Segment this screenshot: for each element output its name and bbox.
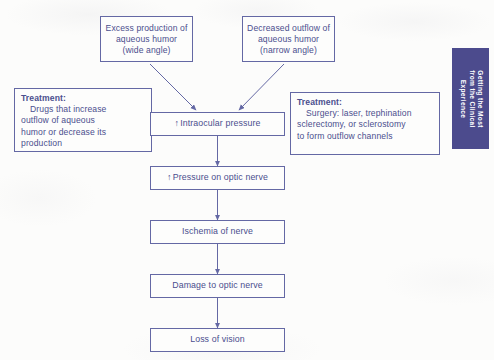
treatment-body: Surgery: laser, trephination sclerectomy… [297, 108, 434, 142]
margin-tab-getting-the-most: Getting the Most from the Clinical Exper… [452, 48, 489, 149]
cause-line: (wide angle) [122, 45, 170, 55]
chain-box-label: Ischemia of nerve [182, 226, 253, 237]
treatment-body-line: outflow of aqueous [21, 115, 146, 126]
figure-canvas: Excess production of aqueous humor (wide… [0, 0, 494, 360]
treatment-body-line: Drugs that increase [21, 104, 146, 115]
arrow-excess-production-to-iop [150, 64, 196, 110]
treatment-heading: Treatment: [21, 93, 146, 104]
treatment-body-line: production [21, 138, 146, 149]
cause-box-decreased-outflow: Decreased outflow of aqueous humor (narr… [242, 16, 335, 62]
treatment-body-line: humor or decrease its [21, 127, 146, 138]
margin-tab-text: Getting the Most from the Clinical Exper… [458, 49, 483, 148]
treatment-body-line: Surgery: laser, trephination [297, 108, 434, 119]
treatment-body-line: to form outflow channels [297, 131, 434, 142]
treatment-body: Drugs that increase outflow of aqueous h… [21, 104, 146, 149]
chain-box-label: Loss of vision [190, 334, 245, 345]
chain-box-ischemia-of-nerve: Ischemia of nerve [150, 220, 285, 244]
margin-tab-line: Experience [458, 49, 466, 148]
chain-box-intraocular-pressure: ↑ Intraocular pressure [150, 112, 285, 136]
margin-tab-line: from the Clinical [466, 49, 474, 148]
cause-box-excess-production: Excess production of aqueous humor (wide… [100, 16, 193, 62]
cause-line: Excess production [106, 23, 178, 33]
treatment-box-surgical: Treatment: Surgery: laser, trephination … [290, 92, 440, 155]
margin-tab-line: Getting the Most [475, 49, 483, 148]
cause-line: Decreased outflow [247, 23, 320, 33]
cause-line: (narrow angle) [260, 45, 317, 55]
increase-arrow-icon: ↑ [175, 118, 180, 129]
increase-arrow-icon: ↑ [167, 172, 172, 183]
chain-box-pressure-on-optic-nerve: ↑ Pressure on optic nerve [150, 166, 285, 190]
treatment-heading: Treatment: [297, 97, 434, 108]
chain-box-label: Intraocular pressure [180, 118, 260, 129]
treatment-body-line: sclerectomy, or sclerostomy [297, 119, 434, 130]
arrow-decreased-outflow-to-iop [239, 64, 284, 110]
chain-box-label: Pressure on optic nerve [173, 172, 268, 183]
chain-box-damage-to-optic-nerve: Damage to optic nerve [150, 274, 285, 298]
treatment-box-medical: Treatment: Drugs that increase outflow o… [14, 88, 152, 152]
chain-box-loss-of-vision: Loss of vision [150, 328, 285, 352]
chain-box-label: Damage to optic nerve [172, 280, 263, 291]
